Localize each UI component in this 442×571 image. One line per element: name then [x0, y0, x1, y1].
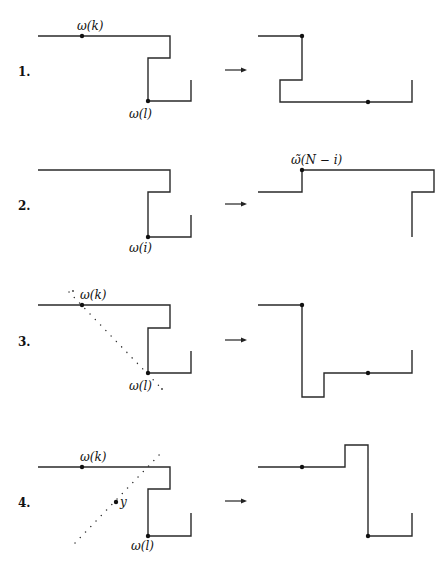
- row-number: 3.: [18, 335, 31, 349]
- walk-right-2: ω̃(N − i): [258, 153, 434, 237]
- walk-right-1: [258, 34, 412, 104]
- walk-vertex-marker: [146, 534, 150, 538]
- walk-vertex-marker: [146, 371, 150, 375]
- vertex-label: ω(l): [129, 379, 152, 393]
- transform-arrow-icon: [225, 338, 247, 343]
- transform-arrow-icon: [225, 202, 247, 207]
- walk-path: [258, 36, 412, 102]
- walk-vertex-marker: [300, 303, 304, 307]
- walk-path: [38, 36, 191, 101]
- reflection-line-end-dot: [161, 388, 163, 390]
- walk-path: [258, 305, 412, 397]
- vertex-label: ω(i): [129, 241, 152, 255]
- vertex-label: ω(l): [131, 539, 154, 553]
- walk-vertex-marker: [80, 303, 84, 307]
- walk-vertex-marker: [146, 235, 150, 239]
- self-avoiding-walk-transformation-figure: 1.ω(k)ω(l)2.ω(i)ω̃(N − i)3.ω(k)ω(l)4.ω(k…: [0, 0, 442, 571]
- vertex-label: ω(k): [80, 450, 107, 464]
- figure-row-2: 2.ω(i)ω̃(N − i): [18, 153, 434, 255]
- walk-vertex-marker: [80, 465, 84, 469]
- vertex-label: ω(l): [129, 107, 152, 121]
- walk-vertex-marker: [80, 34, 84, 38]
- walk-path: [258, 170, 434, 237]
- walk-path: [258, 445, 412, 536]
- row-number: 1.: [18, 65, 31, 79]
- figure-row-3: 3.ω(k)ω(l): [18, 288, 412, 397]
- walk-vertex-marker: [366, 371, 370, 375]
- walk-left-3: ω(k)ω(l): [38, 288, 191, 393]
- walk-vertex-marker: [366, 534, 370, 538]
- figure-row-1: 1.ω(k)ω(l): [18, 19, 412, 121]
- walk-left-4: ω(k)ω(l)y: [38, 450, 191, 553]
- walk-path: [38, 305, 191, 373]
- row-number: 4.: [18, 496, 31, 510]
- walk-left-1: ω(k)ω(l): [38, 19, 191, 121]
- walk-path: [38, 170, 191, 237]
- row-number: 2.: [18, 199, 31, 213]
- vertex-label: ω̃(N − i): [291, 153, 342, 167]
- vertex-label: y: [119, 495, 127, 509]
- walk-vertex-marker: [366, 100, 370, 104]
- vertex-label: ω(k): [80, 288, 107, 302]
- walk-right-3: [258, 303, 412, 397]
- walk-vertex-marker: [300, 34, 304, 38]
- walk-vertex-marker: [146, 99, 150, 103]
- walk-right-4: [258, 445, 412, 538]
- vertex-label: ω(k): [77, 19, 104, 33]
- walk-vertex-marker: [300, 465, 304, 469]
- reflection-line: [75, 452, 162, 543]
- walk-left-2: ω(i): [38, 170, 191, 255]
- figure-row-4: 4.ω(k)ω(l)y: [18, 445, 412, 553]
- reflection-line-end-dot: [72, 290, 74, 292]
- transform-arrow-icon: [225, 68, 247, 73]
- walk-vertex-marker: [300, 168, 304, 172]
- transform-arrow-icon: [225, 499, 247, 504]
- walk-vertex-marker: [114, 500, 118, 504]
